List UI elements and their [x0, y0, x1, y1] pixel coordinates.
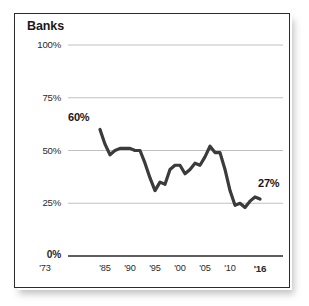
- y-axis-tick-label: 75%: [27, 92, 61, 103]
- y-axis-tick-label: 50%: [27, 145, 61, 156]
- data-line-banks: [100, 129, 260, 207]
- annotation-start-value: 60%: [68, 111, 89, 123]
- x-axis-tick-label: '10: [215, 263, 245, 273]
- annotation-end-value: 27%: [258, 177, 279, 189]
- y-axis-tick-label: 25%: [27, 197, 61, 208]
- chart-figure: Banks 100%75%50%25%0% '73'85'90'95'00'05…: [0, 0, 309, 306]
- gridlines: [68, 45, 283, 256]
- y-axis-tick-label: 100%: [27, 39, 61, 50]
- y-axis-tick-label: 0%: [27, 249, 61, 260]
- x-axis-tick-label: '73: [30, 263, 60, 273]
- x-axis-tick-label: '16: [245, 263, 275, 274]
